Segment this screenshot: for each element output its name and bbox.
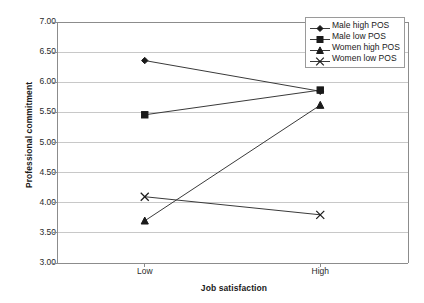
series-line bbox=[145, 61, 321, 92]
x-axis-tick-labels: LowHigh bbox=[0, 267, 424, 281]
x-axis-title: Job satisfaction bbox=[60, 283, 408, 293]
data-point-square-marker bbox=[142, 112, 148, 118]
legend-item: Women high POS bbox=[309, 42, 400, 53]
legend-item-label: Male high POS bbox=[331, 20, 389, 31]
data-series bbox=[142, 57, 324, 94]
series-line bbox=[145, 90, 321, 115]
data-point-square-marker bbox=[317, 87, 323, 93]
legend-cross-icon bbox=[309, 53, 331, 64]
legend-triangle-icon bbox=[309, 42, 331, 53]
legend-item-label: Women low POS bbox=[331, 53, 397, 64]
data-series bbox=[142, 87, 324, 118]
data-point-triangle-marker bbox=[317, 101, 324, 108]
series-line bbox=[145, 105, 321, 221]
data-point-diamond-marker bbox=[142, 57, 148, 63]
legend-item: Male high POS bbox=[309, 20, 400, 31]
x-tick-label: Low bbox=[137, 267, 153, 276]
legend-item-label: Women high POS bbox=[331, 42, 400, 53]
legend-item-label: Male low POS bbox=[331, 31, 386, 42]
series-line bbox=[145, 197, 321, 215]
legend-diamond-icon bbox=[309, 20, 331, 31]
legend-item: Women low POS bbox=[309, 53, 400, 64]
data-point-triangle-marker bbox=[141, 217, 148, 224]
legend-square-icon bbox=[309, 31, 331, 42]
chart-legend: Male high POSMale low POSWomen high POSW… bbox=[305, 17, 405, 68]
interaction-line-chart: Professional commitment 7.006.506.005.50… bbox=[0, 0, 424, 303]
x-tick-label: High bbox=[312, 267, 329, 276]
legend-item: Male low POS bbox=[309, 31, 400, 42]
